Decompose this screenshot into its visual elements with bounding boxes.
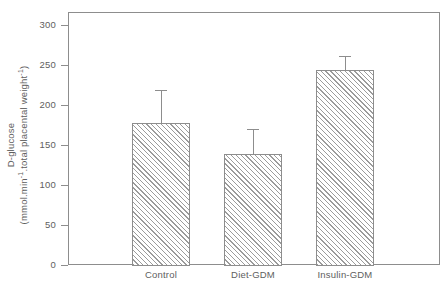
y-axis-title: D-glucose (mmol.min-1.total placental we…	[0, 0, 34, 290]
y-tick-label-150: 150	[40, 140, 56, 150]
y-tick-label-300: 300	[40, 20, 56, 30]
bar-insulin-gdm	[316, 70, 374, 266]
y-axis-units-suffix: )	[18, 66, 29, 69]
y-axis-units-mid: .total placental weight	[18, 76, 29, 172]
bar-diet-gdm	[224, 154, 282, 266]
y-tick-label-200: 200	[40, 100, 56, 110]
bar-control	[132, 123, 190, 266]
y-axis-units-sup-2: -1	[16, 69, 23, 76]
y-tick-label-100: 100	[40, 180, 56, 190]
y-tick-mark-0	[61, 265, 68, 266]
x-tick-label-diet-gdm: Diet-GDM	[231, 269, 275, 281]
x-tick-label-insulin-gdm: Insulin-GDM	[318, 269, 373, 281]
y-tick-label-50: 50	[45, 220, 56, 230]
y-axis-title-line-2: (mmol.min-1.total placental weight-1)	[18, 66, 30, 225]
error-bar-cap-insulin-gdm	[339, 56, 351, 57]
y-tick-mark-50	[61, 225, 68, 226]
error-bar-line-insulin-gdm	[345, 56, 346, 70]
y-axis-units-sup-1: -1	[16, 172, 23, 179]
y-tick-mark-150	[61, 145, 68, 146]
y-tick-mark-300	[61, 25, 68, 26]
y-tick-label-250: 250	[40, 60, 56, 70]
error-bar-line-control	[161, 90, 162, 123]
y-axis-units-prefix: (mmol.min	[18, 178, 29, 224]
y-tick-mark-200	[61, 105, 68, 106]
x-tick-label-control: Control	[145, 269, 177, 281]
y-axis-title-line-1: D-glucose	[5, 123, 17, 168]
error-bar-line-diet-gdm	[253, 129, 254, 154]
y-tick-mark-250	[61, 65, 68, 66]
error-bar-cap-control	[155, 90, 167, 91]
bar-chart-figure: D-glucose (mmol.min-1.total placental we…	[0, 0, 447, 290]
error-bar-cap-diet-gdm	[247, 129, 259, 130]
y-tick-mark-100	[61, 185, 68, 186]
y-tick-label-0: 0	[51, 260, 56, 270]
